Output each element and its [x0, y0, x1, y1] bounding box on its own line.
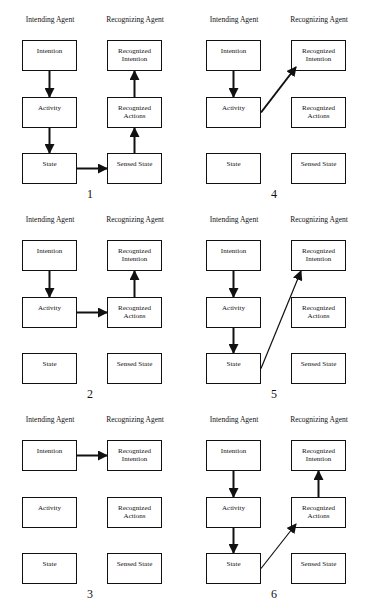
panel-2: Intending AgentRecognizing AgentIntentio…: [0, 200, 184, 400]
box-recognized-actions: Recognized Actions: [107, 297, 162, 328]
intending-agent-header: Intending Agent: [194, 215, 274, 224]
box-recognized-intention: Recognized Intention: [291, 240, 346, 271]
box-sensed-state: Sensed State: [291, 153, 346, 184]
box-intention: Intention: [206, 240, 261, 271]
box-recognized-intention: Recognized Intention: [291, 40, 346, 71]
box-state: State: [206, 353, 261, 384]
recognizing-agent-header: Recognizing Agent: [95, 415, 175, 424]
box-activity: Activity: [22, 497, 77, 528]
box-activity: Activity: [206, 297, 261, 328]
box-recognized-intention: Recognized Intention: [107, 40, 162, 71]
box-intention: Intention: [22, 40, 77, 71]
box-state: State: [22, 153, 77, 184]
box-state: State: [22, 553, 77, 584]
recognizing-agent-header: Recognizing Agent: [95, 15, 175, 24]
box-activity: Activity: [22, 97, 77, 128]
panel-number: 3: [80, 587, 100, 602]
box-activity: Activity: [22, 297, 77, 328]
box-sensed-state: Sensed State: [107, 553, 162, 584]
box-sensed-state: Sensed State: [107, 353, 162, 384]
box-state: State: [22, 353, 77, 384]
panel-number: 6: [264, 587, 284, 602]
intending-agent-header: Intending Agent: [10, 215, 90, 224]
panel-3: Intending AgentRecognizing AgentIntentio…: [0, 400, 184, 600]
box-recognized-actions: Recognized Actions: [107, 97, 162, 128]
box-sensed-state: Sensed State: [291, 553, 346, 584]
box-state: State: [206, 153, 261, 184]
panel-1: Intending AgentRecognizing AgentIntentio…: [0, 0, 184, 200]
box-recognized-actions: Recognized Actions: [291, 97, 346, 128]
panel-5: Intending AgentRecognizing AgentIntentio…: [184, 200, 368, 400]
box-intention: Intention: [22, 240, 77, 271]
intending-agent-header: Intending Agent: [194, 415, 274, 424]
box-state: State: [206, 553, 261, 584]
panel-4: Intending AgentRecognizing AgentIntentio…: [184, 0, 368, 200]
box-intention: Intention: [206, 40, 261, 71]
panel-6: Intending AgentRecognizing AgentIntentio…: [184, 400, 368, 600]
intending-agent-header: Intending Agent: [10, 15, 90, 24]
box-recognized-intention: Recognized Intention: [107, 240, 162, 271]
box-activity: Activity: [206, 97, 261, 128]
box-activity: Activity: [206, 497, 261, 528]
box-sensed-state: Sensed State: [291, 353, 346, 384]
box-sensed-state: Sensed State: [107, 153, 162, 184]
intending-agent-header: Intending Agent: [194, 15, 274, 24]
box-recognized-intention: Recognized Intention: [107, 440, 162, 471]
box-intention: Intention: [206, 440, 261, 471]
intending-agent-header: Intending Agent: [10, 415, 90, 424]
box-recognized-actions: Recognized Actions: [291, 497, 346, 528]
box-intention: Intention: [22, 440, 77, 471]
recognizing-agent-header: Recognizing Agent: [279, 215, 359, 224]
recognizing-agent-header: Recognizing Agent: [279, 415, 359, 424]
recognizing-agent-header: Recognizing Agent: [95, 215, 175, 224]
box-recognized-actions: Recognized Actions: [291, 297, 346, 328]
box-recognized-intention: Recognized Intention: [291, 440, 346, 471]
box-recognized-actions: Recognized Actions: [107, 497, 162, 528]
recognizing-agent-header: Recognizing Agent: [279, 15, 359, 24]
